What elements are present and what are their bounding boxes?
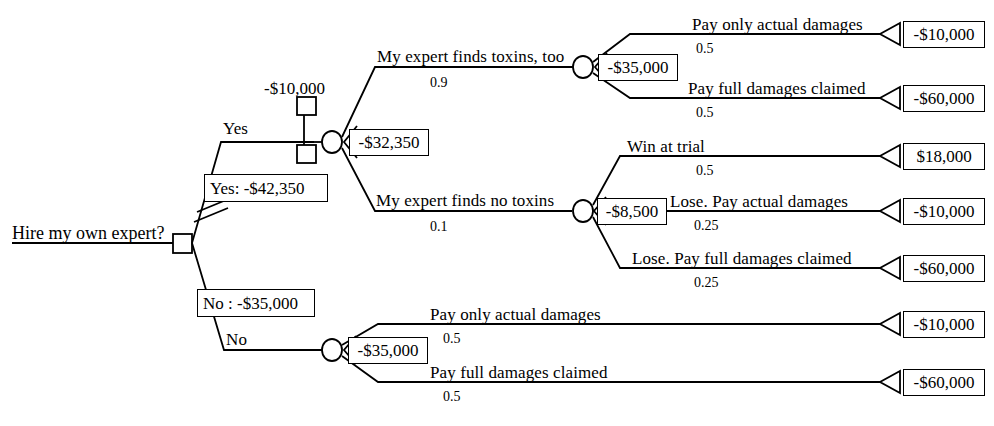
terminal-triangle-1 [880,23,900,45]
sub-branch-label-toxins-found: My expert finds toxins, too [377,48,564,65]
terminal-value-7: -$60,000 [903,369,985,396]
outcome-label-5: Lose. Pay full damages claimed [632,250,852,267]
outcome-prob-3: 0.5 [696,164,714,178]
outcome-prob-4: 0.25 [694,219,719,233]
outcome-label-7: Pay full damages claimed [430,364,608,381]
outcome-prob-7: 0.5 [443,390,461,404]
outcome-label-4: Lose. Pay actual damages [670,193,848,210]
outcome-label-6: Pay only actual damages [430,306,601,323]
edge-toxins-found [342,67,578,137]
terminal-triangle-2 [880,87,900,109]
sub-branch-label-no-toxins: My expert finds no toxins [376,192,554,209]
outcome-prob-5: 0.25 [694,276,719,290]
root-question-label: Hire my own expert? [12,224,164,244]
branch-label-no: No [226,331,247,348]
cost-marker-square-bottom [297,145,316,163]
terminal-value-4: -$10,000 [903,198,985,225]
rollback-value-no-expert: -$35,000 [348,337,428,364]
terminal-triangle-3 [880,145,900,167]
chance-node-no-toxins [573,200,593,222]
terminal-value-5: -$60,000 [903,255,985,282]
rollback-value-toxins-found: -$35,000 [598,54,678,81]
cost-marker-label: -$10,000 [264,80,325,97]
outcome-prob-6: 0.5 [443,332,461,346]
sub-branch-prob-no-toxins: 0.1 [430,220,448,234]
sub-branch-prob-toxins-found: 0.9 [430,76,448,90]
rollback-value-yes-chance: -$32,350 [349,129,429,156]
root-decision-node [173,234,192,253]
terminal-value-3: $18,000 [903,143,985,170]
summary-box-no: No : -$35,000 [197,289,315,317]
outcome-label-1: Pay only actual damages [692,16,863,33]
prune-slash-1 [194,208,228,222]
chance-node-toxins-found [573,56,593,78]
decision-tree-diagram: Hire my own expert? Yes No -$10,000 Yes:… [0,0,994,426]
terminal-triangle-6 [880,313,900,335]
outcome-prob-2: 0.5 [696,106,714,120]
terminal-triangle-7 [880,371,900,393]
summary-box-yes: Yes: -$42,350 [204,174,328,202]
terminal-value-1: -$10,000 [903,21,985,48]
rollback-value-no-toxins: -$8,500 [597,198,667,225]
terminal-value-6: -$10,000 [903,311,985,338]
outcome-label-3: Win at trial [627,138,705,155]
terminal-value-2: -$60,000 [903,85,985,112]
branch-label-yes: Yes [223,120,248,137]
chance-node-yes [322,131,342,153]
terminal-triangle-5 [880,257,900,279]
outcome-prob-1: 0.5 [696,42,714,56]
chance-node-no-expert [322,339,342,361]
terminal-triangle-4 [880,200,900,222]
cost-marker-square-top [297,97,316,115]
outcome-label-2: Pay full damages claimed [688,80,866,97]
